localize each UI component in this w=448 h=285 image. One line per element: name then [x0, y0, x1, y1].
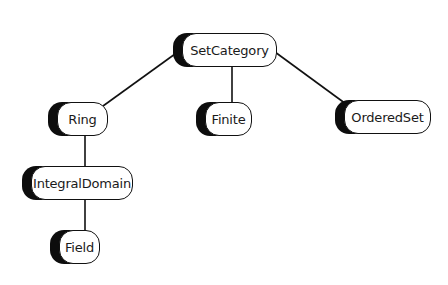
edge-setcategory-ring: [103, 54, 175, 106]
node-label: Field: [59, 230, 100, 264]
node-label: IntegralDomain: [31, 166, 133, 200]
node-ring[interactable]: Ring: [48, 102, 108, 136]
node-setcategory[interactable]: SetCategory: [173, 33, 277, 67]
edge-setcategory-orderedset: [275, 52, 346, 104]
node-label: OrderedSet: [344, 100, 431, 134]
node-label: SetCategory: [182, 33, 277, 67]
node-integraldomain[interactable]: IntegralDomain: [22, 166, 133, 200]
node-finite[interactable]: Finite: [196, 102, 252, 136]
node-orderedset[interactable]: OrderedSet: [335, 100, 431, 134]
node-label: Ring: [57, 102, 108, 136]
diagram-canvas: SetCategory Ring Finite OrderedSet Integ…: [0, 0, 448, 285]
node-label: Finite: [205, 102, 252, 136]
node-field[interactable]: Field: [50, 230, 100, 264]
